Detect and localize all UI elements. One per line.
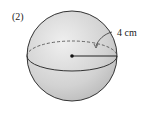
- diagram-canvas: (2) 4 cm: [0, 0, 157, 113]
- problem-number: (2): [12, 11, 24, 23]
- sphere-figure: (2) 4 cm: [0, 0, 157, 113]
- radius-label: 4 cm: [117, 27, 137, 38]
- center-point: [70, 54, 74, 58]
